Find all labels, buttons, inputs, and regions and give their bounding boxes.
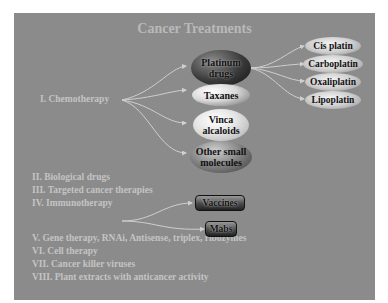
node-label: Taxanes bbox=[204, 90, 239, 101]
node-label-line1: Other small bbox=[196, 146, 247, 157]
node-label: Carboplatin bbox=[308, 59, 358, 70]
node-label-line2: molecules bbox=[200, 157, 242, 168]
category-plant-extracts: VIII. Plant extracts with anticancer act… bbox=[32, 272, 209, 282]
node-cis-platin: Cis platin bbox=[305, 37, 361, 55]
category-biological-drugs: II. Biological drugs bbox=[32, 172, 110, 182]
node-label-line2: drugs bbox=[209, 68, 233, 79]
node-lipoplatin: Lipoplatin bbox=[305, 91, 361, 109]
slide: Cancer Treatments I. Chemotherapy II. Bi… bbox=[14, 13, 375, 300]
node-mabs: Mabs bbox=[205, 221, 237, 237]
slide-title: Cancer Treatments bbox=[14, 21, 375, 37]
node-oxaliplatin: Oxaliplatin bbox=[305, 73, 361, 91]
category-cancer-killer-viruses: VII. Cancer killer viruses bbox=[32, 259, 135, 269]
node-other-small-molecules: Other smallmolecules bbox=[190, 141, 252, 173]
node-carboplatin: Carboplatin bbox=[303, 55, 363, 73]
category-cell-therapy: VI. Cell therapy bbox=[32, 246, 98, 256]
node-vaccines: Vaccines bbox=[195, 195, 245, 211]
node-label: Mabs bbox=[210, 224, 233, 234]
node-label: Lipoplatin bbox=[312, 95, 355, 106]
node-label: Oxaliplatin bbox=[310, 77, 356, 88]
node-label: Vaccines bbox=[202, 198, 237, 208]
node-label-line2: alcaloids bbox=[202, 125, 239, 136]
node-platinum-drugs: Platinumdrugs bbox=[191, 50, 251, 86]
node-taxanes: Taxanes bbox=[192, 84, 250, 106]
category-targeted-therapies: III. Targeted cancer therapies bbox=[32, 185, 153, 195]
category-immunotherapy: IV. Immunotherapy bbox=[32, 198, 113, 208]
node-label: Cis platin bbox=[313, 41, 352, 52]
node-vinca-alcaloids: Vincaalcaloids bbox=[193, 109, 249, 141]
node-label-line1: Platinum bbox=[201, 57, 240, 68]
node-label-line1: Vinca bbox=[209, 114, 234, 125]
category-chemotherapy: I. Chemotherapy bbox=[40, 94, 109, 104]
